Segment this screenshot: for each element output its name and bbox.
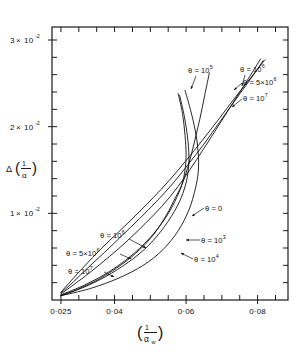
y-tick-mantissa-0: 1 [10,209,15,218]
annotation-exponent: 6 [262,63,265,69]
annotation-equals: = [107,231,112,240]
annotation-exponent: 6 [122,229,125,235]
annotation-theta-0: θ=0 [205,204,222,213]
annotation-exponent: 7 [265,92,268,98]
annotation-theta-1e3: θ=103 [201,234,226,245]
y-tick-label-group-1: 2×10-2 [10,120,40,132]
annotation-theta-1e4: θ=104 [194,253,219,264]
curve-2 [61,95,189,295]
annotation-theta-symbol: θ [188,66,192,75]
annotation-theta-1e5: θ=105 [188,64,213,75]
x-tick-label-0: 0·025 [50,307,72,316]
curve-annotations: θ=105θ=106θ=5×106θ=107θ=0θ=103θ=104θ=106… [66,63,277,276]
y-axis-title-numerator: 1 [22,160,26,167]
annotation-theta-symbol: θ [243,94,247,103]
annotation-theta-1e7-top: θ=107 [243,92,268,103]
leader-theta-1e3-arrowhead [186,239,189,242]
y-axis-title-close-paren: ) [32,159,37,176]
leader-theta-0-arrowhead [192,213,195,216]
annotation-mantissa: 10 [214,236,222,245]
y-axis-title-delta: Δ [6,164,12,174]
data-curves [61,59,265,296]
annotation-theta-1e7-low: θ=107 [68,265,93,276]
annotation-theta-1e6-low: θ=106 [100,229,125,240]
y-tick-times-0: × [16,209,21,218]
annotation-mantissa: 5×10 [256,78,273,87]
annotation-mantissa: 5×10 [79,249,96,258]
chart-svg: 0·0250·040·060·08 1×10-22×10-23×10-2 θ=1… [0,0,305,352]
annotation-exponent: 5 [210,64,213,70]
annotation-theta-5e6-low: θ=5×106 [66,247,100,258]
curve-4 [61,73,209,295]
y-tick-label-group-2: 3×10-2 [10,33,40,45]
annotation-equals: = [250,78,255,87]
x-axis-title-subscript: w [151,339,156,345]
y-axis-tick-labels: 1×10-22×10-23×10-2 [10,33,40,218]
annotation-equals: = [212,204,217,213]
x-tick-label-2: 0·06 [178,307,195,316]
annotation-mantissa: 10 [256,94,264,103]
y-tick-label-group-0: 1×10-2 [10,206,40,218]
annotation-exponent: 6 [97,247,100,253]
x-tick-label-3: 0·08 [249,307,266,316]
annotation-mantissa: 10 [201,66,209,75]
x-axis-title-numerator: 1 [145,324,149,331]
x-axis-title-close-paren: ) [158,324,163,341]
annotation-equals: = [247,65,252,74]
curve-6 [61,61,263,293]
annotation-mantissa: 10 [113,231,121,240]
y-tick-exponent-2: -2 [35,33,40,39]
annotation-theta-symbol: θ [205,204,209,213]
annotation-equals: = [73,249,78,258]
label-leader-lines [104,75,245,277]
annotation-theta-symbol: θ [240,65,244,74]
y-axis-title-open-paren: ( [15,159,20,176]
annotation-equals: = [195,66,200,75]
annotation-mantissa: 10 [207,255,215,264]
y-tick-times-1: × [16,123,21,132]
annotation-exponent: 3 [223,234,226,240]
x-axis-title: ( 1 α w ) [137,324,163,345]
y-tick-base-2: 10 [24,36,34,45]
y-tick-mantissa-1: 2 [10,123,15,132]
y-tick-base-0: 10 [24,209,34,218]
x-tick-label-1: 0·04 [106,307,123,316]
leader-theta-1e5-arrowhead [191,86,193,89]
x-axis-title-denominator: α [144,334,149,344]
annotation-theta-symbol: θ [66,249,70,258]
x-axis-tick-labels: 0·0250·040·060·08 [50,307,266,316]
annotation-theta-symbol: θ [68,267,72,276]
y-axis-title-denominator: α [22,171,27,180]
figure-canvas: 0·0250·040·060·08 1×10-22×10-23×10-2 θ=1… [0,0,305,352]
x-axis-title-open-paren: ( [137,324,143,341]
y-axis-title: Δ ( 1 α ) [6,159,37,180]
annotation-exponent: 7 [90,265,93,271]
annotation-mantissa: 10 [81,267,89,276]
curve-5 [61,59,261,294]
y-tick-base-1: 10 [24,123,34,132]
annotation-theta-symbol: θ [194,255,198,264]
annotation-mantissa: 0 [218,204,222,213]
y-tick-exponent-0: -2 [35,206,40,212]
annotation-exponent: 6 [274,76,277,82]
annotation-mantissa: 10 [253,65,261,74]
annotation-exponent: 4 [216,253,219,259]
annotation-equals: = [208,236,213,245]
annotation-theta-symbol: θ [201,236,205,245]
y-tick-mantissa-2: 3 [10,36,15,45]
annotation-equals: = [75,267,80,276]
y-tick-times-2: × [16,36,21,45]
annotation-theta-1e6-top: θ=106 [240,63,265,74]
annotation-theta-symbol: θ [100,231,104,240]
leader-theta-1e6-low [129,239,146,248]
y-tick-exponent-1: -2 [35,120,40,126]
annotation-theta-symbol: θ [243,78,247,87]
annotation-equals: = [250,94,255,103]
annotation-equals: = [201,255,206,264]
